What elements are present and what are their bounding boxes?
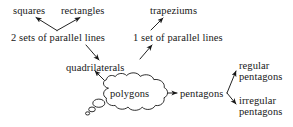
thought-trail-bubble-3 xyxy=(86,112,90,115)
node-irregular-pentagons-line1: irregular xyxy=(239,95,282,106)
node-irregular-pentagons-line2: pentagons xyxy=(239,106,282,117)
edge-one-set-to-trapeziums xyxy=(151,18,163,30)
node-one-set-of-parallel-lines: 1 set of parallel lines xyxy=(133,32,223,43)
edge-pentagons-to-regular xyxy=(227,71,236,93)
node-regular-pentagons: regular pentagons xyxy=(239,60,282,82)
concept-map-diagram: squares rectangles trapeziums 2 sets of … xyxy=(0,0,293,127)
edge-two-sets-to-quadrilaterals xyxy=(86,45,99,60)
edge-quadrilaterals-to-one-set xyxy=(140,45,152,59)
node-rectangles: rectangles xyxy=(61,5,105,16)
node-two-sets-of-parallel-lines: 2 sets of parallel lines xyxy=(11,32,105,43)
node-polygons: polygons xyxy=(110,88,149,99)
node-regular-pentagons-line2: pentagons xyxy=(239,71,282,82)
edge-two-sets-to-rectangles xyxy=(57,18,80,31)
node-irregular-pentagons: irregular pentagons xyxy=(239,95,282,117)
node-quadrilaterals: quadrilaterals xyxy=(66,62,125,73)
node-pentagons: pentagons xyxy=(180,88,223,99)
thought-trail-bubble-1 xyxy=(93,99,105,107)
node-regular-pentagons-line1: regular xyxy=(239,60,282,71)
node-squares: squares xyxy=(13,5,45,16)
thought-trail-bubble-2 xyxy=(89,107,96,112)
edge-two-sets-to-squares xyxy=(36,18,57,31)
node-trapeziums: trapeziums xyxy=(150,5,197,16)
edge-pentagons-to-irregular xyxy=(227,93,236,104)
